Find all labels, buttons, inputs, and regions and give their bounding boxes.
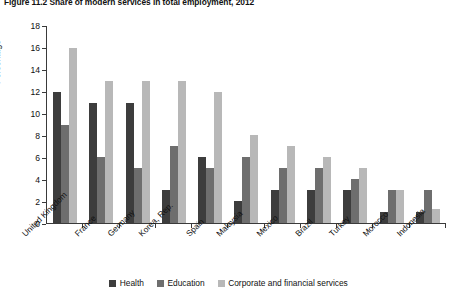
legend-item: Corporate and financial services <box>218 278 348 288</box>
bar <box>432 209 440 223</box>
y-tick-mark <box>42 114 46 115</box>
bar-group <box>156 26 192 223</box>
legend-swatch-health <box>109 280 116 287</box>
bar <box>61 125 69 224</box>
y-tick-label: 16 <box>30 43 40 53</box>
chart-plot-area: 181614121086420 <box>46 26 446 224</box>
bar <box>105 81 113 223</box>
bar-group <box>337 26 373 223</box>
bar <box>323 157 331 223</box>
bar-groups-container <box>47 26 446 223</box>
bar <box>89 103 97 223</box>
bar <box>359 168 367 223</box>
y-tick-mark <box>42 180 46 181</box>
y-tick-label: 4 <box>35 175 40 185</box>
y-tick-mark <box>42 92 46 93</box>
bar-group <box>410 26 446 223</box>
y-tick-mark <box>42 136 46 137</box>
bar <box>279 168 287 223</box>
x-label-cell: Mexico <box>265 228 301 276</box>
legend-item: Education <box>157 278 205 288</box>
bar <box>198 157 206 223</box>
chart-legend: HealthEducationCorporate and financial s… <box>0 278 457 288</box>
bar-group <box>265 26 301 223</box>
bar <box>315 168 323 223</box>
bar <box>142 81 150 223</box>
bar-group <box>373 26 409 223</box>
y-tick-label: 2 <box>35 197 40 207</box>
bar <box>424 190 432 223</box>
bar <box>97 157 105 223</box>
bar <box>396 190 404 223</box>
legend-label: Health <box>120 278 144 288</box>
x-label-cell: Indonesia <box>410 228 446 276</box>
bar-group <box>192 26 228 223</box>
legend-label: Education <box>167 278 204 288</box>
legend-swatch-education <box>157 280 164 287</box>
bar <box>388 190 396 223</box>
bar <box>214 92 222 223</box>
bar <box>287 146 295 223</box>
y-tick-mark <box>42 70 46 71</box>
bar <box>250 135 258 223</box>
y-tick-mark <box>42 202 46 203</box>
bar-group <box>120 26 156 223</box>
legend-swatch-corporate <box>218 280 225 287</box>
bar-group <box>301 26 337 223</box>
bar-group <box>83 26 119 223</box>
bar-group <box>228 26 264 223</box>
x-axis-labels: United KingdomFranceGermanyKorea, Rep.Sp… <box>47 228 446 276</box>
bar <box>351 179 359 223</box>
y-tick-label: 12 <box>30 87 40 97</box>
y-tick-mark <box>42 26 46 27</box>
y-tick-mark <box>42 224 46 225</box>
bar <box>170 146 178 223</box>
legend-item: Health <box>109 278 144 288</box>
bar <box>126 103 134 223</box>
y-axis-title: Percentage <box>0 40 2 84</box>
x-label-cell: Germany <box>120 228 156 276</box>
figure-title: Figure 11.2 Share of modern services in … <box>4 0 254 7</box>
bar <box>206 168 214 223</box>
legend-label: Corporate and financial services <box>228 278 348 288</box>
y-tick-label: 8 <box>35 131 40 141</box>
y-tick-label: 10 <box>30 109 40 119</box>
bar <box>242 157 250 223</box>
y-tick-mark <box>42 48 46 49</box>
y-tick-mark <box>42 158 46 159</box>
bar <box>69 48 77 223</box>
y-tick-label: 18 <box>30 21 40 31</box>
y-tick-label: 14 <box>30 65 40 75</box>
bar <box>178 81 186 223</box>
y-tick-label: 6 <box>35 153 40 163</box>
